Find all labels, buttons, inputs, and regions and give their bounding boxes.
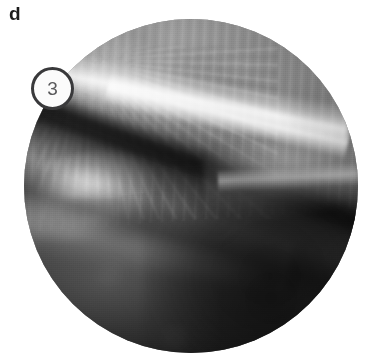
scope-rim-highlight [24,19,358,353]
arthroscopic-image [24,19,358,353]
annotation-marker-3: 3 [31,67,74,110]
annotation-marker-3-label: 3 [47,79,58,98]
panel-label: d [9,4,21,23]
figure-panel: d 3 [0,0,376,363]
arthroscopic-image-viewport [24,19,358,353]
